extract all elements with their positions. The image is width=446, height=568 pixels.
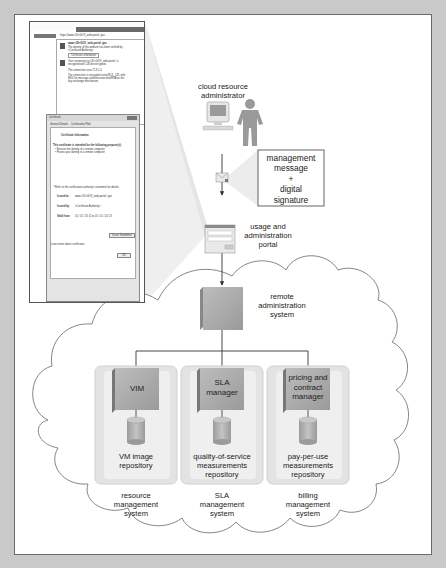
portal-window-icon [205,225,235,253]
remote-admin-label: remote administration system [252,292,312,320]
computer-icon [203,102,233,130]
vim-label: VIM [115,384,159,394]
remote-administration-server [200,287,243,330]
certificate-information-button[interactable]: Certificate information [68,53,99,58]
resource-management-system-label: resource management system [100,491,172,519]
vm-image-repository-label: VM image repository [98,452,174,470]
tab-general[interactable]: General [50,123,59,126]
person-icon [237,99,263,146]
message-box-label: management message + digital signature [258,153,324,205]
pricing-manager-label: pricing and contract manager [282,373,334,402]
pay-per-use-repository-label: pay-per-use measurements repository [268,452,348,480]
sla-manager-label: SLA manager [200,378,244,397]
callout-fan-screenshot [145,22,209,303]
browser-certificate-screenshot: https://www.<ID>GOV_web-portal·.gov www.… [29,21,145,303]
certificate-dialog: Certificate General Details Certificatio… [46,114,140,302]
portal-label: usage and administration portal [238,222,298,250]
database-icon [299,417,317,445]
sla-management-system-label: SLA management system [186,491,258,519]
administrator-label: cloud resource administrator [186,82,260,100]
learn-more-link[interactable]: Learn more about certificates [51,243,85,246]
message-envelope-icon [216,173,228,182]
database-icon [127,417,145,445]
billing-management-system-label: billing management system [272,491,344,519]
tab-details[interactable]: Details [60,123,68,126]
url-bar: https://www.<ID>GOV_web-portal·.gov [60,34,105,37]
database-icon [213,417,231,445]
issuer-statement-button[interactable]: Issuer Statement [109,233,135,238]
tab-certification-path[interactable]: Certification Path [71,123,91,126]
qos-repository-label: quality-of-service measurements reposito… [180,452,264,480]
ok-button[interactable]: OK [117,253,131,258]
